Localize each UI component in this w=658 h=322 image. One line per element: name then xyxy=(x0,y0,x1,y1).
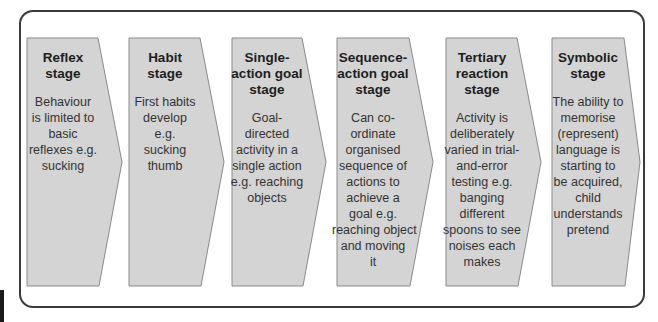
title-line: Habit xyxy=(128,50,202,66)
desc-line: is limited to xyxy=(26,110,100,126)
title-line: Tertiary xyxy=(445,50,519,66)
desc-line: goal e.g. xyxy=(336,206,410,222)
desc-line: pretend xyxy=(551,222,625,238)
title-line: reaction xyxy=(445,66,519,82)
desc-line: First habits xyxy=(128,94,202,110)
desc-line: Can co- xyxy=(336,110,410,126)
title-line: Reflex xyxy=(26,50,100,66)
desc-line: Behaviour xyxy=(26,94,100,110)
title-line: Single- xyxy=(230,50,304,66)
desc-line: Activity is xyxy=(445,110,519,126)
desc-line: e.g. reaching xyxy=(230,174,304,190)
title-line: Symbolic xyxy=(551,50,625,66)
desc-line: banging xyxy=(445,190,519,206)
stage-description: Activity is deliberately varied in trial… xyxy=(445,110,519,270)
desc-line: different xyxy=(445,206,519,222)
title-line: Sequence- xyxy=(336,50,410,66)
desc-line: spoons to see xyxy=(441,222,523,238)
title-line: action goal xyxy=(230,66,304,82)
stage-symbolic: Symbolic stage The ability to memorise (… xyxy=(551,38,625,286)
title-line: action goal xyxy=(336,66,410,82)
stage-tertiary-reaction: Tertiary reaction stage Activity is deli… xyxy=(445,38,519,286)
desc-line: ordinate xyxy=(336,126,410,142)
desc-line: objects xyxy=(230,190,304,206)
stage-reflex: Reflex stage Behaviour is limited to bas… xyxy=(26,38,100,286)
stage-title: Sequence- action goal stage xyxy=(336,50,410,98)
desc-line: language is xyxy=(551,142,625,158)
desc-line: basic xyxy=(26,126,100,142)
stage-title: Reflex stage xyxy=(26,50,100,82)
stage-description: The ability to memorise (represent) lang… xyxy=(551,94,625,238)
desc-line: makes xyxy=(445,254,519,270)
desc-line: be acquired, xyxy=(551,174,625,190)
stage-single-action-goal: Single- action goal stage Goal-directed … xyxy=(230,38,304,286)
title-line: stage xyxy=(128,66,202,82)
desc-line: organised xyxy=(336,142,410,158)
title-line: stage xyxy=(445,82,519,98)
desc-line: memorise xyxy=(551,110,625,126)
stage-title: Tertiary reaction stage xyxy=(445,50,519,98)
desc-line: develop xyxy=(128,110,202,126)
title-line: stage xyxy=(551,66,625,82)
stage-description: Behaviour is limited to basic reflexes e… xyxy=(26,94,100,174)
desc-line: starting to xyxy=(551,158,625,174)
stage-description: Can co- ordinate organised sequence of a… xyxy=(336,110,410,270)
desc-line: activity in a xyxy=(230,142,304,158)
desc-line: Goal-directed xyxy=(230,110,304,142)
desc-line: (represent) xyxy=(551,126,625,142)
desc-line: sucking xyxy=(26,158,100,174)
desc-line: single action xyxy=(230,158,304,174)
title-line: stage xyxy=(26,66,100,82)
desc-line: testing e.g. xyxy=(445,174,519,190)
stage-habit: Habit stage First habits develop e.g. su… xyxy=(128,38,202,286)
desc-line: noises each xyxy=(445,238,519,254)
stage-title: Symbolic stage xyxy=(551,50,625,82)
stage-title: Single- action goal stage xyxy=(230,50,304,98)
desc-line: e.g. xyxy=(128,126,202,142)
desc-line: sucking xyxy=(128,142,202,158)
desc-line: child xyxy=(551,190,625,206)
desc-line: actions to xyxy=(336,174,410,190)
desc-line: understands xyxy=(551,206,625,222)
stage-sequence-action-goal: Sequence- action goal stage Can co- ordi… xyxy=(336,38,410,286)
stage-description: First habits develop e.g. sucking thumb xyxy=(128,94,202,174)
stage-title: Habit stage xyxy=(128,50,202,82)
desc-line: reflexes e.g. xyxy=(26,142,100,158)
desc-line: thumb xyxy=(128,158,202,174)
desc-line: The ability to xyxy=(547,94,629,110)
desc-line: varied in trial- xyxy=(441,142,523,158)
desc-line: deliberately xyxy=(445,126,519,142)
desc-line: reaching object xyxy=(332,222,414,238)
desc-line: sequence of xyxy=(336,158,410,174)
desc-line: and moving it xyxy=(336,238,410,270)
stage-description: Goal-directed activity in a single actio… xyxy=(230,110,304,206)
desc-line: and-error xyxy=(445,158,519,174)
title-line: stage xyxy=(336,82,410,98)
title-line: stage xyxy=(230,82,304,98)
desc-line: achieve a xyxy=(336,190,410,206)
